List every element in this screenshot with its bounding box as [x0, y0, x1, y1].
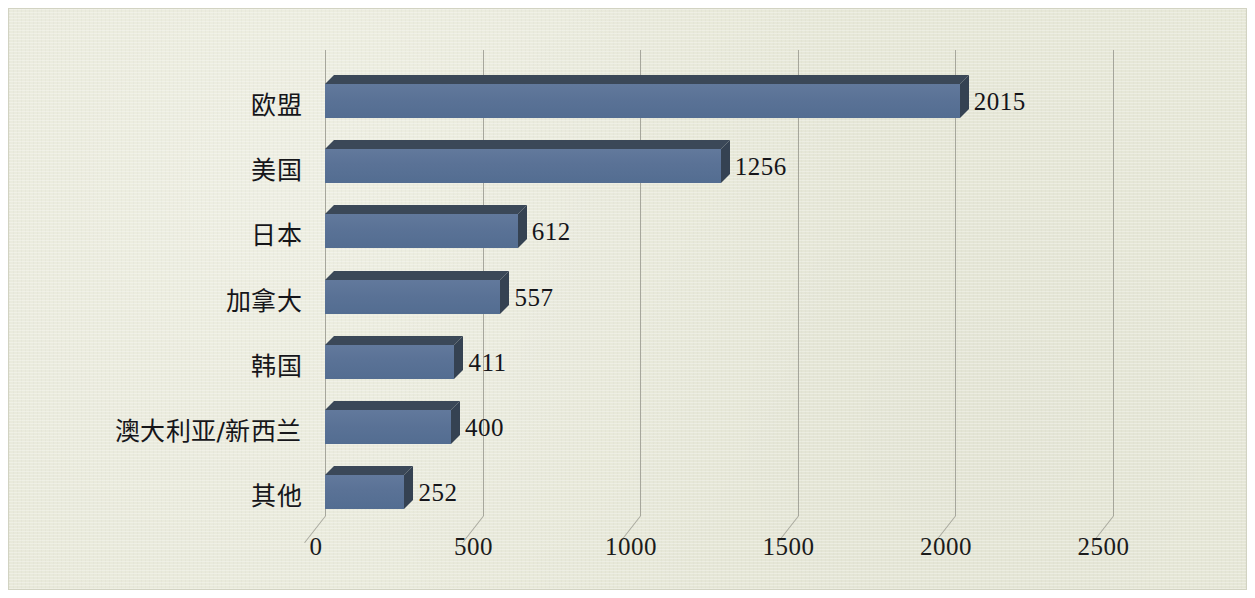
bar-top-face: [325, 271, 509, 280]
category-label-1: 美国: [9, 150, 302, 186]
bar-front-face: [325, 149, 721, 183]
gridline-1000: [640, 50, 641, 516]
plot-area: 20151256612557411400252 欧盟美国日本加拿大韩国澳大利亚/…: [9, 9, 1247, 590]
bar-top-face: [325, 336, 463, 345]
category-label-5: 澳大利亚/新西兰: [9, 411, 302, 447]
bar-value-label: 1256: [735, 153, 787, 181]
x-tick-500: 500: [454, 533, 493, 561]
x-tick-1000: 1000: [605, 533, 657, 561]
bar-front-face: [325, 410, 451, 444]
x-tick-0: 0: [310, 533, 323, 561]
bar-top-face: [325, 466, 413, 475]
bar-side-face: [518, 205, 527, 248]
bar-value-label: 400: [465, 414, 504, 442]
bar-6: [316, 466, 404, 509]
bar-top-face: [325, 140, 730, 149]
bar-top-face: [325, 401, 460, 410]
category-label-2: 日本: [9, 215, 302, 251]
bar-value-label: 2015: [974, 88, 1026, 116]
category-label-6: 其他: [9, 476, 302, 512]
bar-front-face: [325, 214, 518, 248]
bar-front-face: [325, 345, 454, 379]
bar-2: [316, 205, 518, 248]
x-tick-2500: 2500: [1078, 533, 1130, 561]
category-label-4: 韩国: [9, 346, 302, 382]
bar-side-face: [960, 75, 969, 118]
bar-side-face: [454, 336, 463, 379]
bar-side-face: [404, 466, 413, 509]
bar-front-face: [325, 84, 960, 118]
bar-1: [316, 140, 721, 183]
bar-side-face: [721, 140, 730, 183]
bar-3: [316, 271, 500, 314]
x-tick-1500: 1500: [763, 533, 815, 561]
bar-side-face: [451, 401, 460, 444]
bar-value-label: 612: [532, 218, 571, 246]
bar-front-face: [325, 280, 500, 314]
category-label-3: 加拿大: [9, 281, 302, 317]
chart-paper-background: 20151256612557411400252 欧盟美国日本加拿大韩国澳大利亚/…: [8, 8, 1247, 590]
gridline-2500: [1113, 50, 1114, 516]
x-tick-2000: 2000: [920, 533, 972, 561]
bar-side-face: [500, 271, 509, 314]
bar-4: [316, 336, 454, 379]
bar-value-label: 411: [468, 349, 506, 377]
gridline-2000: [955, 50, 956, 516]
bar-top-face: [325, 75, 969, 84]
bar-5: [316, 401, 451, 444]
bar-value-label: 252: [418, 479, 457, 507]
category-label-0: 欧盟: [9, 85, 302, 121]
bar-front-face: [325, 475, 404, 509]
bar-0: [316, 75, 960, 118]
gridline-1500: [798, 50, 799, 516]
chart-page: 20151256612557411400252 欧盟美国日本加拿大韩国澳大利亚/…: [0, 0, 1255, 598]
bar-value-label: 557: [514, 284, 553, 312]
bar-top-face: [325, 205, 527, 214]
